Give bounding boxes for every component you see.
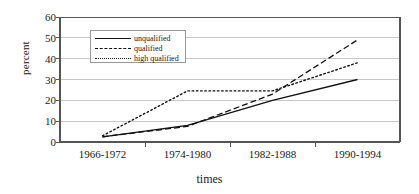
legend-item-qualified: qualified [91, 43, 185, 53]
legend-label: unqualified [132, 34, 170, 43]
x-tick-label: 1966-1972 [79, 148, 127, 160]
legend-item-high-qualified: high qualified [91, 53, 185, 63]
x-tick-label: 1974-1980 [164, 148, 212, 160]
legend-swatch-dashed-line-icon [94, 44, 132, 53]
line-chart: percent 60 50 40 30 20 10 0 [0, 0, 419, 194]
series-line-high-qualified [103, 63, 358, 136]
x-tick-label: 1990-1994 [334, 148, 382, 160]
legend-swatch-solid-line-icon [94, 34, 132, 43]
x-tick-label: 1982-1988 [249, 148, 297, 160]
legend-label: high qualified [132, 54, 179, 63]
legend-item-unqualified: unqualified [91, 33, 185, 43]
legend-label: qualified [132, 44, 162, 53]
series-line-unqualified [103, 80, 358, 137]
plot-canvas [0, 0, 419, 194]
x-axis-title: times [0, 172, 419, 187]
chart-legend: unqualified qualified high qualified [90, 30, 186, 63]
legend-swatch-dotted-line-icon [94, 54, 132, 63]
